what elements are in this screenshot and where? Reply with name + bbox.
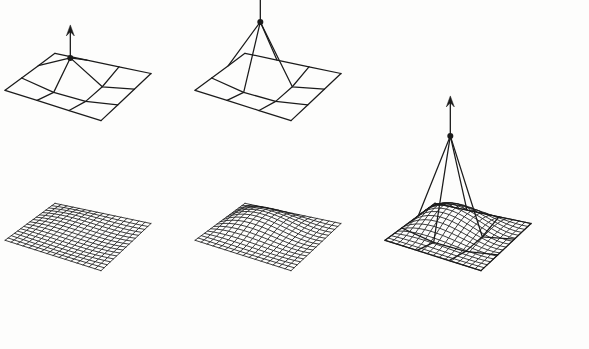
background	[0, 0, 589, 349]
figure-canvas	[0, 0, 589, 349]
moved-control-vertex-dot[interactable]	[67, 55, 73, 61]
figure-root: Control point displacement and resulting…	[0, 0, 589, 349]
moved-control-vertex-dot[interactable]	[447, 133, 453, 139]
moved-control-vertex-dot[interactable]	[257, 19, 263, 25]
